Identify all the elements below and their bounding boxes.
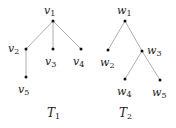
node-v3 bbox=[52, 48, 55, 51]
tree-diagram: v1v2v3v4v5w1w2w3w4w5 T1T2 bbox=[0, 0, 176, 128]
edge-v1-v2 bbox=[26, 21, 53, 49]
edge-w1-w2 bbox=[108, 21, 125, 50]
label-w3: w3 bbox=[147, 44, 162, 58]
tree-title-1: T1 bbox=[47, 106, 60, 121]
node-w5 bbox=[159, 79, 162, 82]
tree-title-2: T2 bbox=[119, 106, 132, 121]
edge-w3-w4 bbox=[125, 51, 142, 79]
node-v4 bbox=[80, 48, 83, 51]
node-v1 bbox=[52, 20, 55, 23]
label-v2: v2 bbox=[8, 42, 19, 56]
label-w1: w1 bbox=[117, 4, 132, 18]
edge-v1-v4 bbox=[53, 21, 81, 49]
label-v1: v1 bbox=[44, 4, 55, 18]
label-w2: w2 bbox=[100, 56, 115, 70]
label-v4: v4 bbox=[73, 55, 84, 69]
edge-w1-w3 bbox=[125, 21, 142, 51]
titles-layer: T1T2 bbox=[47, 106, 132, 121]
node-v5 bbox=[25, 76, 28, 79]
node-v2 bbox=[25, 48, 28, 51]
node-w1 bbox=[124, 20, 127, 23]
node-w3 bbox=[141, 50, 144, 53]
node-w4 bbox=[124, 78, 127, 81]
label-w5: w5 bbox=[152, 86, 167, 100]
node-w2 bbox=[107, 49, 110, 52]
label-v3: v3 bbox=[45, 55, 56, 69]
edges-layer bbox=[26, 21, 160, 80]
label-v5: v5 bbox=[18, 83, 29, 97]
label-w4: w4 bbox=[117, 85, 132, 99]
